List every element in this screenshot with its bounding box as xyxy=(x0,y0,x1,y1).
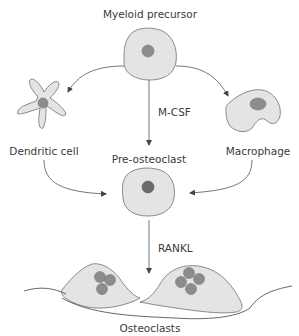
bone-surface-top xyxy=(24,288,66,294)
osteoclast-cell-1 xyxy=(61,264,140,308)
macrophage-label: Macrophage xyxy=(226,145,291,157)
myeloid-precursor-label: Myeloid precursor xyxy=(103,8,198,20)
arrow-to-dendritic xyxy=(68,66,124,92)
osteoclast-cell-2 xyxy=(140,266,242,313)
arrow-dendritic-to-preosteoclast xyxy=(44,160,106,194)
pre-osteoclast-cell xyxy=(122,168,174,216)
mcsf-label: M-CSF xyxy=(158,106,191,118)
pre-osteoclast-label: Pre-osteoclast xyxy=(112,153,186,165)
myeloid-precursor-cell xyxy=(124,28,176,80)
arrow-macrophage-to-preosteoclast xyxy=(190,160,252,193)
arrow-to-macrophage xyxy=(176,66,228,96)
macrophage-cell xyxy=(226,90,280,132)
dendritic-cell xyxy=(17,79,66,128)
dendritic-cell-label: Dendritic cell xyxy=(9,145,78,157)
differentiation-diagram: Myeloid precursor M-CSF Dendritic cell M… xyxy=(0,0,299,336)
rankl-label: RANKL xyxy=(158,242,193,254)
osteoclasts-label: Osteoclasts xyxy=(120,322,181,334)
